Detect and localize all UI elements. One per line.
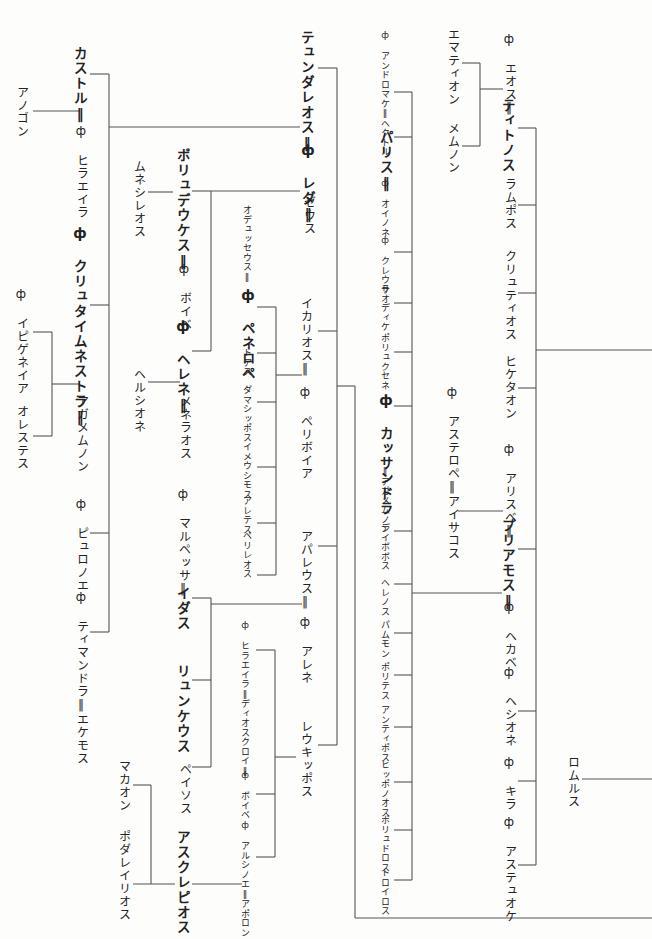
person-polydeukes: ポリュデウケス‖ bbox=[176, 148, 190, 270]
person-tithonos: ティトノス bbox=[501, 98, 515, 173]
person-agamemnon: アガメムノン bbox=[74, 395, 87, 473]
person-pammon: パムモン bbox=[380, 620, 390, 658]
person-polyxene: ポリュクセネ bbox=[380, 333, 390, 390]
person-hilaeira1: ф ヒラエイラ bbox=[74, 124, 87, 219]
person-oinone: ф オイノネ bbox=[380, 178, 390, 237]
person-iphigeneia: ф イピゲネイア bbox=[14, 287, 27, 395]
person-orestes: オレステス bbox=[14, 405, 27, 470]
person-hekabe: ф ヘカベ bbox=[502, 600, 515, 669]
person-arene: ф アレネ bbox=[298, 615, 311, 684]
person-peisos: ペイソス bbox=[177, 763, 190, 815]
person-anogon: アノゴン bbox=[14, 86, 27, 138]
person-emathion: エマティオン bbox=[445, 28, 458, 106]
person-asklepios: アスクレピオス bbox=[176, 830, 190, 935]
person-podaleirios: ポダレイリオス bbox=[116, 830, 129, 921]
person-memnon: メムノン bbox=[445, 122, 458, 174]
person-arsinoe: ф アルシノエ‖アポロン bbox=[240, 820, 250, 937]
person-klytios: クリュティオス bbox=[502, 250, 515, 341]
person-asterope: ф アステロペ‖アイサコス bbox=[445, 385, 458, 560]
person-periboia: ф ペリボイア bbox=[298, 385, 311, 480]
person-aphareus: アパレウス‖ bbox=[298, 530, 311, 610]
person-tyndareos: テュンダレオス‖ bbox=[300, 30, 314, 152]
person-hiketaon: ヒケタオン bbox=[502, 355, 515, 420]
person-mnesileos: ムネシレオス bbox=[131, 160, 144, 238]
person-leukippos: レウキッポス bbox=[298, 720, 311, 798]
person-romulus: ロムルス bbox=[565, 756, 578, 808]
person-troilos: トロイロス bbox=[380, 868, 390, 916]
person-lynkeus: リュンケウス bbox=[176, 664, 190, 754]
person-timandra: ф ティマンドラ‖エケモス bbox=[74, 590, 87, 765]
person-phoibe2: ф ボイベ bbox=[240, 770, 250, 820]
person-thoas: トアス bbox=[242, 348, 252, 377]
person-aletes: アレテス bbox=[242, 496, 252, 534]
person-pyrrhoe: ф ピュロノエ bbox=[74, 497, 87, 592]
person-damasippos: ダマシッポス bbox=[242, 385, 252, 442]
person-perileos: ペリレオス bbox=[242, 531, 252, 579]
person-hipponoos: ヒッポノオス bbox=[380, 760, 390, 817]
person-lampos: ラムポス bbox=[502, 178, 515, 230]
person-helenos: ヘレノス bbox=[380, 578, 390, 616]
person-hermione: ヘルシオネ bbox=[131, 368, 144, 433]
person-polites: ポリテス bbox=[380, 662, 390, 700]
person-hesione: ф ヘシオネ bbox=[502, 665, 515, 747]
connector-lines bbox=[0, 0, 652, 939]
person-machaon: マカオン bbox=[116, 760, 129, 812]
person-polydoros: ポリュドロス bbox=[380, 815, 390, 872]
person-ikarios: イカリオス‖ bbox=[298, 297, 311, 377]
person-priamos: プリアモス‖ bbox=[501, 518, 515, 610]
person-odysseus: オデュッセウス‖ bbox=[242, 205, 252, 282]
person-marpessa: ф マルペッサ‖ bbox=[176, 487, 189, 597]
person-zeus: ゼウス bbox=[301, 196, 314, 235]
person-deiphobos: デイボボス bbox=[380, 523, 390, 571]
person-killa: ф キラ bbox=[502, 755, 515, 811]
person-antiphos: アンティポス bbox=[380, 705, 390, 762]
person-idas: イダス bbox=[176, 586, 190, 631]
person-hilaeira2: ф ヒラエイラ‖ディオスクロイ‖ bbox=[240, 620, 250, 776]
person-astyoche: ф アステュオケ bbox=[502, 815, 515, 923]
person-kastor: カストル‖ bbox=[73, 46, 87, 123]
person-menelaos: メネラオス bbox=[177, 395, 190, 460]
person-laodike: ラオディケ bbox=[380, 284, 390, 332]
person-imeusimos: イメウシモス bbox=[242, 442, 252, 499]
